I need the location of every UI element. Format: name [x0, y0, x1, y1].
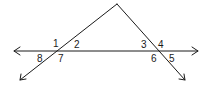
angle-label-1: 1 [53, 39, 59, 49]
right-transversal-line [117, 4, 185, 80]
angle-diagram: 1 2 7 8 3 4 6 5 [0, 0, 212, 90]
left-transversal-line [20, 4, 117, 80]
diagram-canvas [0, 0, 212, 90]
angle-label-8: 8 [37, 54, 43, 64]
angle-label-6: 6 [151, 54, 157, 64]
angle-label-3: 3 [141, 40, 147, 50]
angle-label-7: 7 [58, 54, 64, 64]
angle-label-4: 4 [158, 40, 164, 50]
angle-label-2: 2 [74, 40, 80, 50]
angle-label-5: 5 [169, 54, 175, 64]
